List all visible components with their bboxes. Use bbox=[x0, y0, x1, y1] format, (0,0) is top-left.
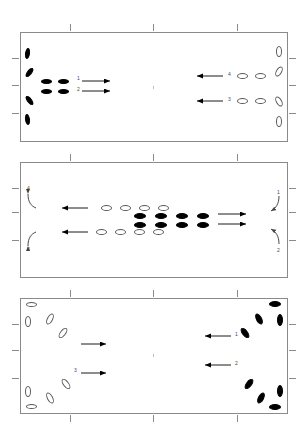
tick-bottom bbox=[70, 415, 71, 422]
tick-left bbox=[12, 240, 19, 241]
tick-right bbox=[289, 324, 296, 325]
panel1-right-edge-marker bbox=[276, 116, 282, 127]
panel3-right-edge-marker bbox=[269, 301, 281, 307]
tick-top bbox=[70, 24, 71, 31]
panel-middle bbox=[20, 162, 288, 278]
panel2-filled-marker bbox=[155, 213, 167, 219]
panel1-right-edge-marker bbox=[276, 46, 282, 57]
panel3-right-edge-marker bbox=[269, 404, 281, 410]
tick-top bbox=[237, 24, 238, 31]
panel2-curve-label: 1 bbox=[277, 190, 280, 195]
tick-right bbox=[289, 113, 296, 114]
panel2-filled-marker bbox=[155, 222, 167, 228]
panel1-left-cluster-marker bbox=[41, 89, 52, 94]
panel3-arrow-label: 3 bbox=[74, 368, 77, 373]
panel1-arrow-label: 2 bbox=[77, 87, 80, 92]
panel2-open-marker bbox=[115, 229, 126, 235]
panel3-left-edge-marker bbox=[25, 386, 31, 397]
panel1-left-cluster-marker bbox=[58, 79, 69, 84]
panel2-open-marker bbox=[158, 205, 169, 211]
panel2-curve-label: 3 bbox=[27, 247, 30, 252]
panel1-arrow-label: 1 bbox=[77, 76, 80, 81]
panel1-left-cluster-marker bbox=[41, 79, 52, 84]
panel2-open-marker bbox=[153, 229, 164, 235]
panel3-right-edge-marker bbox=[277, 314, 283, 326]
tick-left bbox=[12, 350, 19, 351]
tick-left bbox=[12, 58, 19, 59]
tick-left bbox=[12, 212, 19, 213]
tick-top bbox=[237, 290, 238, 297]
panel1-right-cluster-marker bbox=[255, 98, 266, 104]
panel1-arrow-label: 4 bbox=[228, 72, 231, 77]
panel1-center-dot bbox=[153, 86, 154, 89]
tick-top bbox=[153, 154, 154, 161]
panel3-arrow-label: 1 bbox=[235, 332, 238, 337]
tick-right bbox=[289, 212, 296, 213]
panel2-filled-marker bbox=[134, 213, 146, 219]
tick-bottom bbox=[237, 415, 238, 422]
tick-left bbox=[12, 188, 19, 189]
panel2-filled-marker bbox=[134, 222, 146, 228]
tick-left bbox=[12, 113, 19, 114]
tick-top bbox=[153, 290, 154, 297]
tick-top bbox=[70, 290, 71, 297]
tick-right bbox=[289, 188, 296, 189]
panel3-center-dot bbox=[153, 354, 154, 357]
panel2-curve-label: 2 bbox=[277, 248, 280, 253]
panel1-right-cluster-marker bbox=[255, 73, 266, 79]
panel-bottom bbox=[20, 298, 288, 414]
tick-top bbox=[237, 154, 238, 161]
panel3-left-edge-marker bbox=[26, 302, 37, 307]
tick-right bbox=[289, 240, 296, 241]
tick-bottom bbox=[153, 415, 154, 422]
tick-right bbox=[289, 378, 296, 379]
panel2-open-marker bbox=[96, 229, 107, 235]
tick-right bbox=[289, 58, 296, 59]
tick-right bbox=[289, 85, 296, 86]
panel2-open-marker bbox=[134, 229, 145, 235]
panel1-right-cluster-marker bbox=[237, 98, 248, 104]
tick-left bbox=[12, 324, 19, 325]
panel3-arrow-label: 2 bbox=[235, 361, 238, 366]
panel2-open-marker bbox=[120, 205, 131, 211]
tick-left bbox=[12, 85, 19, 86]
panel2-open-marker bbox=[139, 205, 150, 211]
panel1-right-cluster-marker bbox=[237, 73, 248, 79]
panel2-open-marker bbox=[101, 205, 112, 211]
panel1-left-cluster-marker bbox=[58, 89, 69, 94]
tick-left bbox=[12, 378, 19, 379]
tick-top bbox=[70, 154, 71, 161]
figure-container: 12434312312 bbox=[0, 0, 308, 440]
panel2-filled-marker bbox=[176, 213, 188, 219]
panel1-arrow-label: 3 bbox=[228, 97, 231, 102]
panel2-filled-marker bbox=[197, 213, 209, 219]
panel2-curve-label: 4 bbox=[27, 186, 30, 191]
panel-top bbox=[20, 32, 288, 142]
panel3-left-edge-marker bbox=[26, 404, 37, 409]
panel2-filled-marker bbox=[176, 222, 188, 228]
tick-right bbox=[289, 350, 296, 351]
panel3-left-edge-marker bbox=[25, 316, 31, 327]
panel2-filled-marker bbox=[197, 222, 209, 228]
panel3-right-edge-marker bbox=[277, 385, 283, 397]
tick-top bbox=[153, 24, 154, 31]
